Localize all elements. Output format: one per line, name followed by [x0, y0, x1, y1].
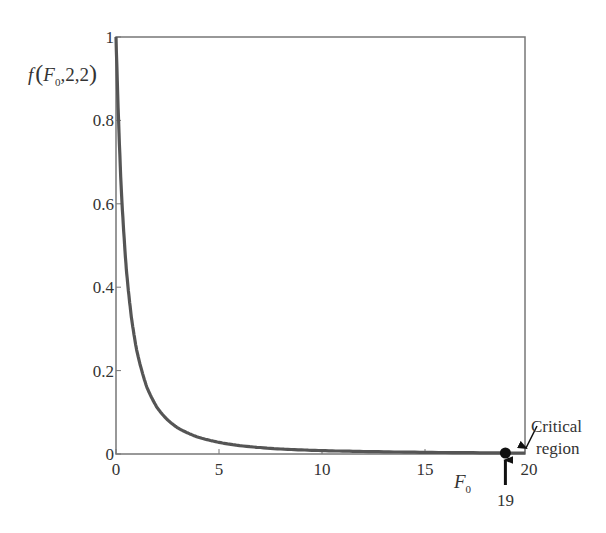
plot-frame [116, 37, 525, 454]
x-tick-label: 5 [215, 460, 224, 479]
x-axis-label: F0 [453, 471, 472, 495]
x-tick-label: 20 [521, 460, 538, 479]
y-tick-label: 0.2 [93, 362, 114, 381]
y-tick-label: 0.6 [93, 195, 114, 214]
y-tick-label: 0.4 [93, 278, 115, 297]
y-tick-label: 1 [106, 28, 115, 47]
critical-region-line2: region [536, 439, 580, 458]
x-tick-label: 10 [314, 460, 331, 479]
x-axis-label-F: F [453, 471, 466, 492]
y-tick-label: 0.8 [93, 111, 114, 130]
critical-region-label: Critical region [531, 417, 586, 458]
series-line [116, 37, 525, 453]
annotation-19-label: 19 [497, 491, 514, 510]
x-tick-label: 15 [417, 460, 434, 479]
series-group [116, 37, 525, 453]
y-axis-label-F: F [42, 64, 55, 85]
y-axis-label-open-paren: ( [35, 60, 43, 86]
chart: 05101520 00.20.40.60.81 f(F0,2,2) F0 19 … [0, 0, 606, 533]
y-axis-label-params: ,2,2 [60, 64, 89, 85]
annotations: 19 Critical region [497, 417, 586, 510]
critical-region-line1: Critical [531, 417, 582, 436]
plot-border [116, 37, 525, 454]
y-axis-label: f(F0,2,2) [28, 60, 97, 88]
y-axis-label-close-paren: ) [89, 60, 97, 86]
x-axis-label-subscript: 0 [466, 483, 472, 495]
critical-value-point [500, 448, 511, 459]
y-tick-label: 0 [106, 445, 115, 464]
